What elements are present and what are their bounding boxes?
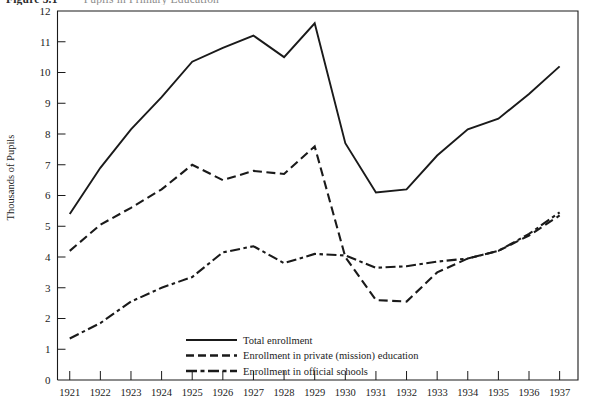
x-axis-tick-label: 1931 — [365, 387, 386, 398]
x-axis-tick-label: 1925 — [182, 387, 203, 398]
x-axis-tick-label: 1926 — [212, 387, 233, 398]
y-axis-tick-label: 1 — [45, 343, 51, 355]
x-axis-tick-label: 1928 — [274, 387, 295, 398]
series-line-1 — [70, 23, 560, 214]
x-axis-tick-label: 1936 — [519, 387, 540, 398]
line-chart: 0123456789101112 Thousands of Pupils 192… — [0, 0, 593, 409]
legend-label-2: Enrollment in private (mission) educatio… — [243, 350, 419, 362]
chart-legend: Total enrollmentEnrollment in private (m… — [186, 335, 419, 377]
plot-border — [58, 11, 579, 380]
y-axis-tick-label: 3 — [45, 282, 51, 294]
x-axis-tick-label: 1923 — [120, 387, 141, 398]
y-axis-ticks — [58, 42, 66, 350]
y-axis-tick-label: 2 — [45, 312, 51, 324]
x-axis-tick-label: 1930 — [335, 387, 356, 398]
plot-frame — [58, 11, 579, 380]
y-axis-tick-label: 7 — [45, 159, 51, 171]
y-axis-tick-label: 8 — [45, 128, 51, 140]
x-axis-tick-label: 1921 — [59, 387, 80, 398]
y-axis-tick-label: 5 — [45, 220, 51, 232]
y-axis-tick-labels: 0123456789101112 — [40, 5, 52, 386]
x-axis-tick-label: 1929 — [304, 387, 325, 398]
series-layer — [70, 23, 560, 338]
y-axis-tick-label: 12 — [40, 5, 51, 17]
x-axis-tick-label: 1924 — [151, 387, 173, 398]
x-axis-tick-label: 1927 — [243, 387, 264, 398]
x-axis-tick-label: 1933 — [427, 387, 448, 398]
legend-label-3: Enrollment in official schools — [243, 366, 368, 377]
figure-root: Figure 3.1Pupils in Primary Education 01… — [0, 0, 593, 409]
x-axis-tick-label: 1922 — [90, 387, 111, 398]
y-axis-title-text: Thousands of Pupils — [5, 135, 16, 221]
y-axis-tick-label: 10 — [40, 66, 52, 78]
y-axis-tick-label: 6 — [45, 189, 51, 201]
series-line-3 — [70, 212, 560, 338]
legend-label-1: Total enrollment — [243, 335, 313, 346]
x-axis-tick-labels: 1921192219231924192519261927192819291930… — [59, 387, 570, 398]
x-axis-tick-label: 1932 — [396, 387, 417, 398]
x-axis-tick-label: 1937 — [549, 387, 570, 398]
x-axis-tick-label: 1934 — [457, 387, 479, 398]
y-axis-tick-label: 0 — [45, 374, 51, 386]
series-line-2 — [70, 146, 560, 301]
y-axis-tick-label: 11 — [40, 36, 51, 48]
y-axis-title: Thousands of Pupils — [5, 135, 16, 221]
y-axis-tick-label: 9 — [45, 97, 51, 109]
y-axis-tick-label: 4 — [45, 251, 51, 263]
x-axis-tick-label: 1935 — [488, 387, 509, 398]
